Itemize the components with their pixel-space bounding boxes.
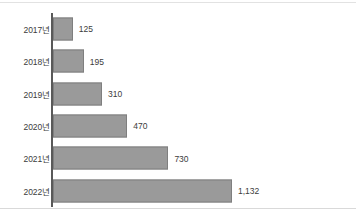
bar-group-2018: 195: [53, 50, 104, 73]
bar-group-2019: 310: [53, 82, 122, 105]
bar-2019[interactable]: [53, 82, 102, 105]
category-label-2019: 2019년: [24, 88, 50, 100]
category-label-2022: 2022년: [24, 185, 50, 197]
value-label-2019: 310: [108, 89, 122, 98]
bar-row: 2020년 470: [0, 110, 356, 142]
category-label-2017: 2017년: [24, 23, 50, 35]
bar-2020[interactable]: [53, 115, 127, 138]
value-label-2018: 195: [90, 57, 104, 66]
bar-row: 2021년 730: [0, 142, 356, 174]
value-label-2021: 730: [174, 154, 188, 163]
bar-row: 2017년 125: [0, 13, 356, 45]
value-label-2022: 1,132: [238, 186, 259, 195]
bar-chart-figure: 2017년 125 2018년 195 2019년 310: [0, 0, 356, 221]
bar-row: 2018년 195: [0, 45, 356, 77]
bar-group-2017: 125: [53, 18, 93, 41]
bar-2022[interactable]: [53, 179, 232, 202]
category-label-2018: 2018년: [24, 55, 50, 67]
bar-2017[interactable]: [53, 18, 73, 41]
category-label-2021: 2021년: [24, 152, 50, 164]
bar-rows: 2017년 125 2018년 195 2019년 310: [0, 13, 356, 207]
value-label-2017: 125: [79, 25, 93, 34]
bar-group-2020: 470: [53, 115, 147, 138]
bar-2021[interactable]: [53, 147, 168, 170]
value-label-2020: 470: [133, 122, 147, 131]
bar-2018[interactable]: [53, 50, 84, 73]
category-label-2020: 2020년: [24, 120, 50, 132]
bar-group-2021: 730: [53, 147, 189, 170]
bar-row: 2022년 1,132: [0, 174, 356, 206]
plot-area: 2017년 125 2018년 195 2019년 310: [0, 0, 356, 221]
bar-row: 2019년 310: [0, 78, 356, 110]
bar-group-2022: 1,132: [53, 179, 259, 202]
